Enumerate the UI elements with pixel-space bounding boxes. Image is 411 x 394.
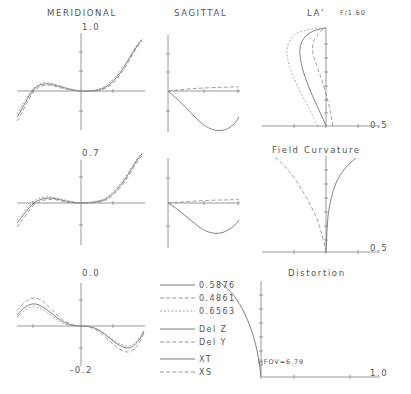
plot-vector-layer xyxy=(0,0,411,394)
legend-swatches xyxy=(160,285,195,372)
meridional-plot-field-1.0 xyxy=(17,33,145,130)
sagittal-plot-field-0.7 xyxy=(166,158,240,248)
meridional-plot-field-0.7 xyxy=(17,153,145,245)
field-curvature-plot xyxy=(262,156,380,254)
distortion-plot xyxy=(218,281,380,379)
aberration-plot-sheet: MERIDIONAL SAGITTAL 1.0 0.7 0.0 -0.2 LA'… xyxy=(0,0,411,394)
meridional-plot-field-0.0 xyxy=(17,283,145,366)
la-plot xyxy=(262,28,380,128)
sagittal-plot-field-1.0 xyxy=(166,35,240,132)
